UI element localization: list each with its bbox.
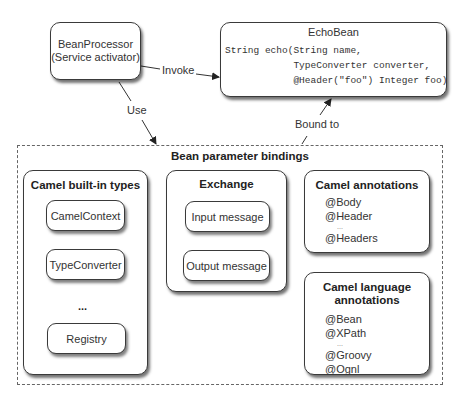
bean-processor-name: BeanProcessor [58, 38, 133, 51]
code-line: TypeConverter converter, [225, 58, 447, 73]
input-message-item: Input message [185, 201, 270, 232]
invoke-label: Invoke [162, 64, 194, 76]
language-annotations-title: Camel language annotations [305, 281, 429, 307]
camel-annotations-list: @Body @Header ... @Headers [325, 195, 378, 245]
exchange-title: Exchange [167, 178, 286, 190]
bean-processor-role: (Service activator) [51, 51, 140, 64]
camel-language-annotations-box: Camel language annotations @Bean @XPath … [304, 272, 430, 375]
annotation-item: @Groovy [325, 348, 372, 362]
code-line: String echo(String name, [225, 43, 447, 58]
code-line: @Header("foo") Integer foo) [225, 73, 447, 88]
echo-bean-title: EchoBean [221, 26, 446, 38]
builtin-types-title: Camel built-in types [24, 179, 147, 191]
annotation-item: @Header [325, 209, 378, 223]
annotation-item: @Headers [325, 231, 378, 245]
builtin-ellipsis: ... [78, 300, 87, 312]
annotation-item: @XPath [325, 326, 372, 340]
bound-to-label: Bound to [295, 118, 339, 130]
camelcontext-item: CamelContext [46, 200, 125, 231]
camel-annotations-title: Camel annotations [305, 179, 429, 191]
bean-processor-box: BeanProcessor (Service activator) [50, 22, 141, 80]
annotation-item: @Ognl [325, 362, 372, 376]
annotation-item: @Body [325, 195, 378, 209]
bindings-title: Bean parameter bindings [170, 150, 310, 162]
camel-annotations-box: Camel annotations @Body @Header ... @Hea… [304, 170, 430, 253]
language-title-line2: annotations [305, 294, 429, 307]
echo-bean-signature: String echo(String name, TypeConverter c… [225, 43, 447, 88]
language-title-line1: Camel language [305, 281, 429, 294]
annotation-item: @Bean [325, 312, 372, 326]
language-annotations-list: @Bean @XPath ... @Groovy @Ognl [325, 312, 372, 376]
echo-bean-box: EchoBean String echo(String name, TypeCo… [220, 22, 447, 97]
annotation-ellipsis: ... [325, 340, 372, 348]
use-label: Use [127, 104, 147, 116]
annotation-ellipsis: ... [325, 223, 378, 231]
output-message-item: Output message [183, 250, 270, 281]
registry-item: Registry [47, 323, 126, 354]
typeconverter-item: TypeConverter [46, 249, 125, 280]
